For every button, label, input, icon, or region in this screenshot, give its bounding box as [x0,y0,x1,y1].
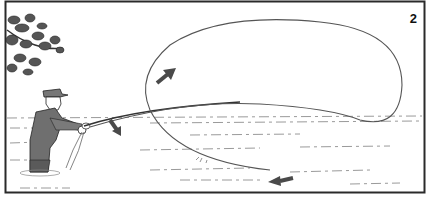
panel-number: 2 [410,11,417,26]
casting-diagram [0,0,431,199]
figure-border [6,2,425,193]
